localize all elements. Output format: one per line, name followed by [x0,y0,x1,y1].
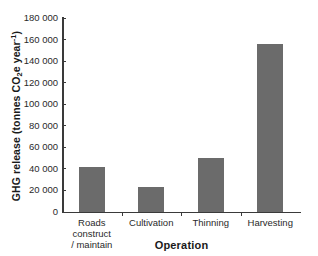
y-axis-tick-label: 100 000 [0,99,58,109]
x-axis-tick [122,212,123,216]
x-axis-category-label: Cultivation [122,217,182,228]
x-axis-category-label-line: Harvesting [241,217,301,228]
y-axis-tick-label: 80 000 [0,121,58,131]
bar [79,167,105,212]
x-axis-tick [181,212,182,216]
y-axis-title-subscript: 2 [15,72,24,76]
x-axis-title: Operation [62,239,301,251]
bar [198,158,224,212]
bar-chart-figure: GHG release (tonnes CO2e year-1) 180 000… [0,0,318,256]
x-axis-category-label: Harvesting [241,217,301,228]
y-axis-tick-label: 140 000 [0,56,58,66]
x-axis-category-label-line: Thinning [181,217,241,228]
x-axis-category-label: Thinning [181,217,241,228]
y-axis-tick-label: 160 000 [0,35,58,45]
y-axis-tick-label: 120 000 [0,78,58,88]
bar [257,44,283,212]
x-axis-tick [241,212,242,216]
y-axis-title-lead: GHG release (tonnes CO [10,77,22,202]
y-axis-tick-label: 180 000 [0,13,58,23]
x-axis-category-label-line: Cultivation [122,217,182,228]
y-axis-tick-label: 20 000 [0,185,58,195]
y-axis-tick-label: 0 [0,207,58,217]
bars-layer [62,18,300,212]
y-axis-tick-label: 40 000 [0,164,58,174]
x-axis-category-label-line: Roads construct [62,217,122,239]
y-axis-tick-label: 60 000 [0,142,58,152]
bar [138,187,164,212]
